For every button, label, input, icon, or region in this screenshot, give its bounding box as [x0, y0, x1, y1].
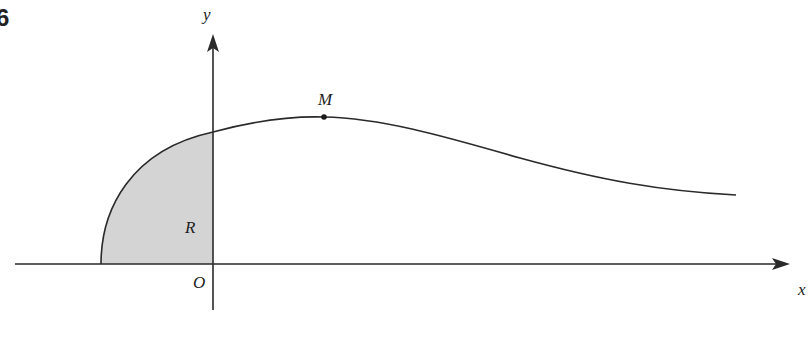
- maximum-point-label: M: [317, 90, 333, 109]
- curve-diagram: y x O R M: [0, 0, 809, 337]
- maximum-point-marker: [321, 114, 327, 120]
- region-label: R: [184, 218, 196, 237]
- y-axis-label: y: [201, 5, 211, 24]
- origin-label: O: [193, 273, 205, 292]
- x-axis-label: x: [797, 280, 806, 299]
